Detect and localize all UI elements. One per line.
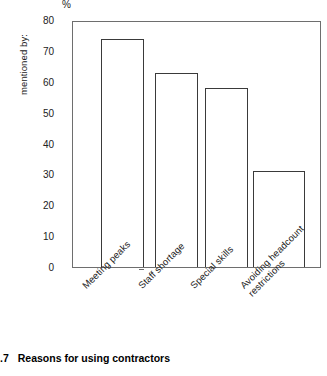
y-tick-label: 80: [14, 15, 54, 27]
y-tick-label: 0: [14, 262, 54, 274]
caption-number: .7: [0, 352, 9, 364]
figure-reasons-for-using-contractors: % mentioned by: 80706050403020100 Meetin…: [0, 0, 327, 376]
bar: [101, 39, 144, 267]
caption-text: Reasons for using contractors: [18, 352, 170, 364]
figure-caption: .7Reasons for using contractors: [0, 352, 170, 364]
y-tick-label: 20: [14, 200, 54, 212]
y-tick-label: 50: [14, 108, 54, 120]
y-tick-label: 30: [14, 169, 54, 181]
bar: [205, 88, 248, 267]
y-tick-label: 60: [14, 77, 54, 89]
y-axis-unit-label: %: [62, 0, 71, 11]
y-tick-label: 70: [14, 46, 54, 58]
y-tick-mark: [139, 269, 144, 270]
bar: [155, 73, 198, 268]
plot-area: 80706050403020100: [72, 21, 321, 268]
y-tick-label: 40: [14, 139, 54, 151]
y-tick-label: 10: [14, 231, 54, 243]
